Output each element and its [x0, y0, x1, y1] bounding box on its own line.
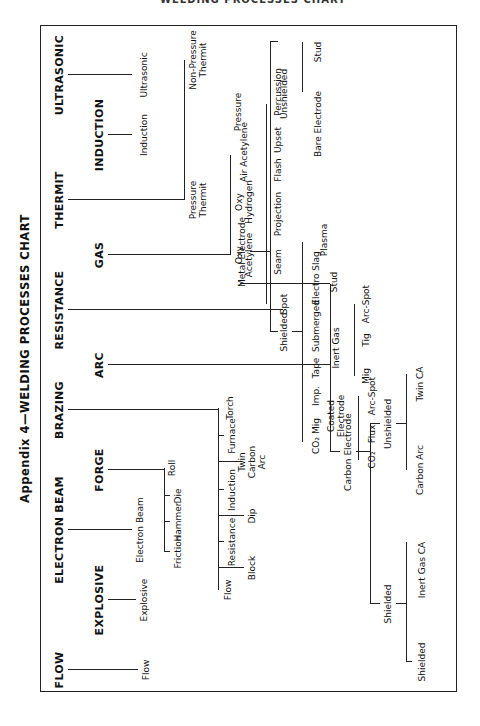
connector: [302, 42, 303, 92]
process-gas: GAS: [95, 242, 105, 268]
connector: [108, 599, 136, 600]
metal-shielded-plasma: Plasma: [319, 224, 329, 256]
connector: [230, 155, 231, 255]
connector: [330, 451, 340, 452]
brazing-torch: Torch: [225, 396, 235, 420]
connector: [108, 134, 132, 135]
process-thermit: THERMIT: [55, 171, 65, 228]
connector: [108, 364, 330, 365]
connector: [292, 331, 302, 332]
metal-shielded-electro-slag: Electro Slag: [311, 251, 321, 305]
metal-inert-gas: Inert Gas: [331, 327, 341, 368]
brazing-furnace: Furnace: [227, 418, 237, 454]
forge-hammer: Hammer: [173, 502, 183, 541]
metal-coated-electrode: Coated Electrode: [326, 386, 346, 446]
metal-shielded-stud: Stud: [329, 272, 339, 293]
coated-co2: CO₂: [367, 452, 377, 469]
brazing-dip: Dip: [247, 508, 257, 523]
connector: [218, 541, 224, 542]
connector: [68, 669, 138, 670]
resistance-seam: Seam: [273, 249, 283, 275]
flow-child: Flow: [141, 660, 151, 681]
metal-unshielded-stud: Stud: [313, 42, 323, 63]
electron-beam-child: Electron Beam: [135, 497, 145, 563]
thermit-pressure: Pressure Thermit: [188, 170, 208, 230]
gas-oxy-acetylene: Oxy Acetylene: [234, 225, 254, 285]
metal-shielded-submerged: Submerged: [311, 300, 321, 352]
carbon-unshielded-twin-ca: Twin CA: [415, 367, 425, 402]
explosive-child: Explosive: [139, 579, 149, 622]
process-forge: FORGE: [95, 448, 105, 491]
carbon-shielded: Shielded: [383, 585, 393, 624]
inert-gas-mig: Mig: [361, 368, 371, 384]
connector: [396, 603, 406, 604]
connector: [354, 304, 355, 376]
process-brazing: BRAZING: [55, 381, 65, 439]
resistance-projection: Projection: [273, 192, 283, 237]
connector: [406, 374, 407, 470]
brazing-induction: Induction: [227, 469, 237, 511]
gas-pressure: Pressure: [233, 93, 243, 131]
connector: [218, 567, 244, 568]
connector: [68, 309, 282, 310]
connector: [358, 396, 359, 460]
process-explosive: EXPLOSIVE: [95, 565, 105, 636]
connector: [68, 74, 132, 75]
connector: [270, 41, 278, 42]
metal-bare-electrode: Bare Electrode: [313, 91, 323, 157]
connector: [302, 242, 303, 442]
connector: [108, 254, 230, 255]
chart-canvas: Appendix 4—WELDING PROCESSES CHART FLOW …: [40, 25, 457, 692]
connector: [370, 603, 380, 604]
brazing-block: Block: [247, 556, 257, 580]
running-header: WELDING PROCESSES CHART: [160, 0, 346, 5]
metal-shielded-tape: Tape: [311, 358, 321, 379]
carbon-shielded-shielded: Shielded: [417, 643, 427, 682]
chart-title: Appendix 4—WELDING PROCESSES CHART: [18, 25, 32, 692]
carbon-shielded-inert-gas-ca: Inert Gas CA: [417, 542, 427, 598]
connector: [68, 409, 218, 410]
resistance-flash: Flash: [273, 158, 283, 182]
connector: [270, 331, 278, 332]
brazing-twin-carbon-arc: Twin Carbon Arc: [237, 440, 267, 484]
inert-gas-tig: Tig: [361, 333, 371, 346]
connector: [164, 521, 170, 522]
connector: [184, 60, 185, 200]
metal-shielded: Shielded: [279, 313, 289, 352]
connector: [218, 489, 224, 490]
connector: [270, 42, 271, 332]
carbon-unshielded: Unshielded: [383, 399, 393, 449]
metal-shielded-imp: Imp.: [311, 386, 321, 406]
connector: [218, 515, 244, 516]
connector: [396, 423, 406, 424]
carbon-unshielded-carbon-arc: Carbon Arc: [415, 445, 425, 495]
brazing-resistance: Resistance: [227, 518, 237, 567]
resistance-spot: Spot: [279, 294, 289, 314]
connector: [68, 199, 184, 200]
resistance-percussion: Percussion: [273, 68, 283, 116]
induction-child: Induction: [139, 114, 149, 156]
process-flow: FLOW: [55, 652, 65, 689]
ultrasonic-child: Ultrasonic: [139, 52, 149, 97]
thermit-non-pressure: Non-Pressure Thermit: [188, 25, 208, 95]
process-electron-beam: ELECTRON BEAM: [55, 476, 65, 584]
process-induction: INDUCTION: [95, 99, 105, 171]
forge-roll: Roll: [167, 460, 177, 476]
resistance-upset: Upset: [273, 127, 283, 153]
metal-shielded-co2-mig: CO₂ Mig: [311, 418, 321, 454]
connector: [406, 661, 412, 662]
connector: [406, 542, 407, 662]
brazing-flow: Flow: [223, 580, 233, 601]
connector: [108, 469, 164, 470]
process-resistance: RESISTANCE: [55, 271, 65, 350]
inert-gas-arc-spot: Arc-Spot: [361, 285, 371, 323]
process-ultrasonic: ULTRASONIC: [55, 35, 65, 115]
connector: [164, 551, 170, 552]
forge-die: Die: [173, 489, 183, 504]
connector: [68, 529, 132, 530]
coated-flux: Flux: [367, 425, 377, 444]
connector: [218, 435, 224, 436]
connector: [164, 495, 170, 496]
connector: [266, 104, 267, 304]
connector: [164, 468, 165, 552]
